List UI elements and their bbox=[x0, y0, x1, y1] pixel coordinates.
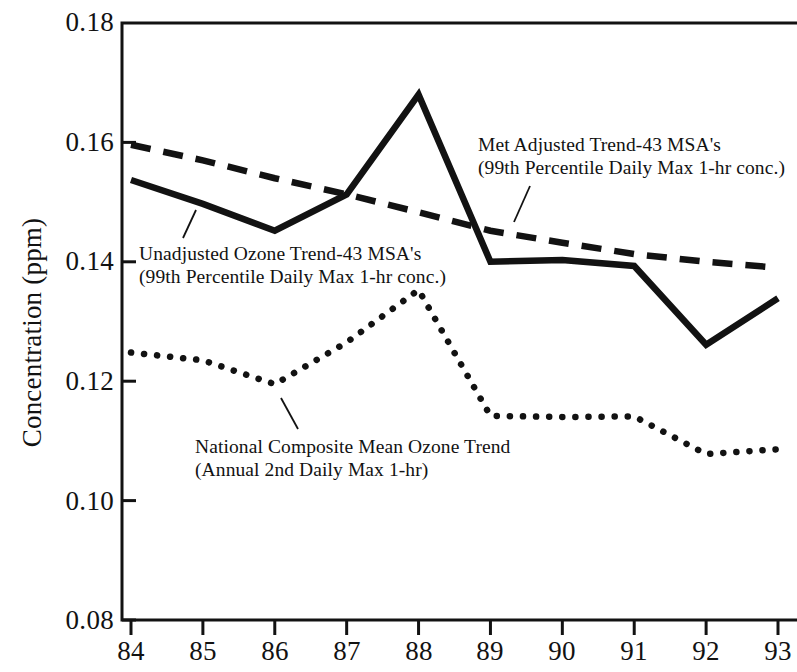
axis-frame bbox=[122, 23, 797, 620]
annotation-national-composite-line1: National Composite Mean Ozone Trend bbox=[195, 435, 510, 458]
ozone-trend-chart-figure: Concentration (ppm) 0.18 0.16 0.14 0.12 … bbox=[0, 0, 797, 672]
annotation-unadjusted-ozone-line2: (99th Percentile Daily Max 1-hr conc.) bbox=[139, 265, 446, 288]
annotation-national-composite: National Composite Mean Ozone Trend (Ann… bbox=[195, 435, 510, 481]
annotation-met-adjusted-line2: (99th Percentile Daily Max 1-hr conc.) bbox=[478, 156, 785, 179]
annotation-unadjusted-ozone: Unadjusted Ozone Trend-43 MSA's (99th Pe… bbox=[139, 242, 446, 288]
annotation-leader-lines bbox=[183, 186, 530, 429]
leader-line-national-composite bbox=[281, 398, 298, 429]
tick-marks bbox=[122, 142, 778, 635]
leader-line-met-adjusted bbox=[514, 186, 530, 222]
annotation-met-adjusted: Met Adjusted Trend-43 MSA's (99th Percen… bbox=[478, 133, 785, 179]
plot-area bbox=[0, 0, 797, 672]
annotation-national-composite-line2: (Annual 2nd Daily Max 1-hr) bbox=[195, 458, 510, 481]
leader-line-unadjusted-ozone bbox=[183, 210, 196, 238]
annotation-met-adjusted-line1: Met Adjusted Trend-43 MSA's bbox=[478, 133, 785, 156]
annotation-unadjusted-ozone-line1: Unadjusted Ozone Trend-43 MSA's bbox=[139, 242, 446, 265]
